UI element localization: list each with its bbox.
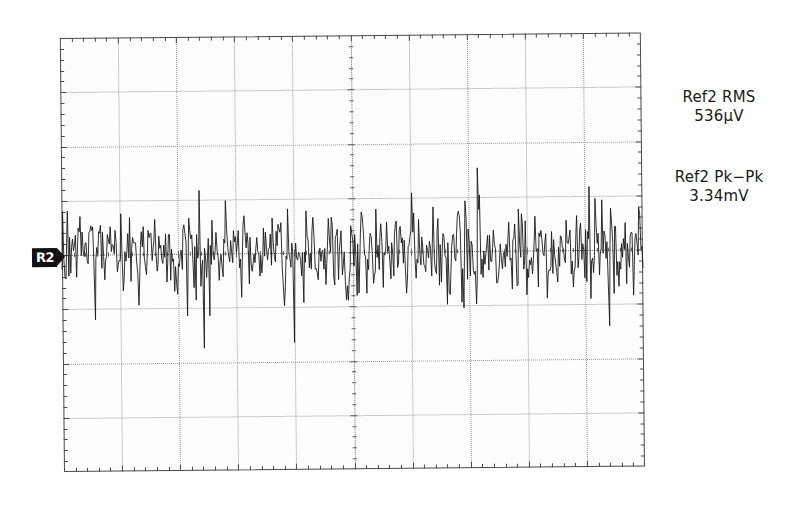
ref2-marker-pointer-icon <box>57 248 65 266</box>
measurement-ref2-rms-value: 536µV <box>655 107 783 126</box>
measurement-ref2-rms-label: Ref2 RMS <box>655 88 783 107</box>
measurement-ref2-pkpk: Ref2 Pk−Pk 3.34mV <box>655 168 783 206</box>
ref2-ground-marker[interactable]: R2 <box>32 248 65 267</box>
measurement-ref2-pkpk-label: Ref2 Pk−Pk <box>655 168 783 187</box>
measurement-ref2-pkpk-value: 3.34mV <box>655 187 783 206</box>
oscilloscope-screen <box>60 32 645 472</box>
waveform-trace <box>60 32 645 472</box>
measurement-ref2-rms: Ref2 RMS 536µV <box>655 88 783 126</box>
ref2-marker-label: R2 <box>32 248 57 267</box>
